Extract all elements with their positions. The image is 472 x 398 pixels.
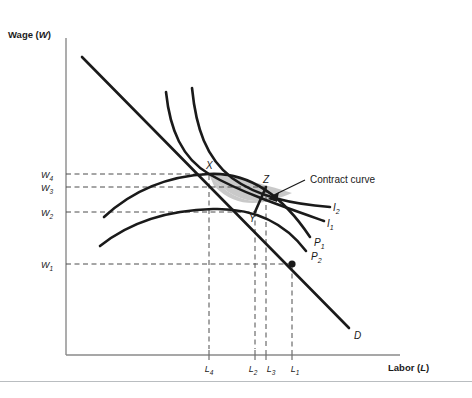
curve-label-d: D — [354, 330, 361, 341]
curve-label-p1: P1 — [314, 237, 325, 250]
x-tick-label-l1: L1 — [291, 364, 300, 376]
y-tick-label-w3: W3 — [41, 183, 54, 195]
curve-label-i2: I2 — [333, 202, 340, 215]
labor-demand-curve — [82, 57, 349, 328]
y-axis-title: Wage (W) — [8, 29, 51, 40]
bilateral-monopoly-contract-curve-chart: Wage (W) Labor (L) W4 W3 W2 W1 L4 L2 L3 … — [0, 0, 472, 398]
point-label-z: Z — [262, 174, 270, 185]
x-tick-label-l2: L2 — [249, 364, 258, 376]
x-tick-label-l3: L3 — [267, 364, 276, 376]
y-tick-label-w1: W1 — [41, 260, 54, 272]
y-tick-label-w4: W4 — [41, 170, 54, 182]
economics-figure: Wage (W) Labor (L) W4 W3 W2 W1 L4 L2 L3 … — [0, 0, 472, 398]
curve-label-p2: P2 — [311, 251, 322, 264]
contract-curve-annotation-label: Contract curve — [310, 174, 375, 185]
isoprofit-curve-p2 — [100, 209, 306, 251]
x-tick-label-l4: L4 — [205, 364, 214, 376]
y-tick-label-w2: W2 — [41, 208, 54, 220]
curve-label-i1: I1 — [327, 218, 334, 231]
point-label-x: X — [205, 160, 213, 171]
x-axis-title: Labor (L) — [388, 362, 429, 373]
competitive-equilibrium-point-marker — [288, 260, 295, 267]
footer-divider — [0, 381, 472, 382]
